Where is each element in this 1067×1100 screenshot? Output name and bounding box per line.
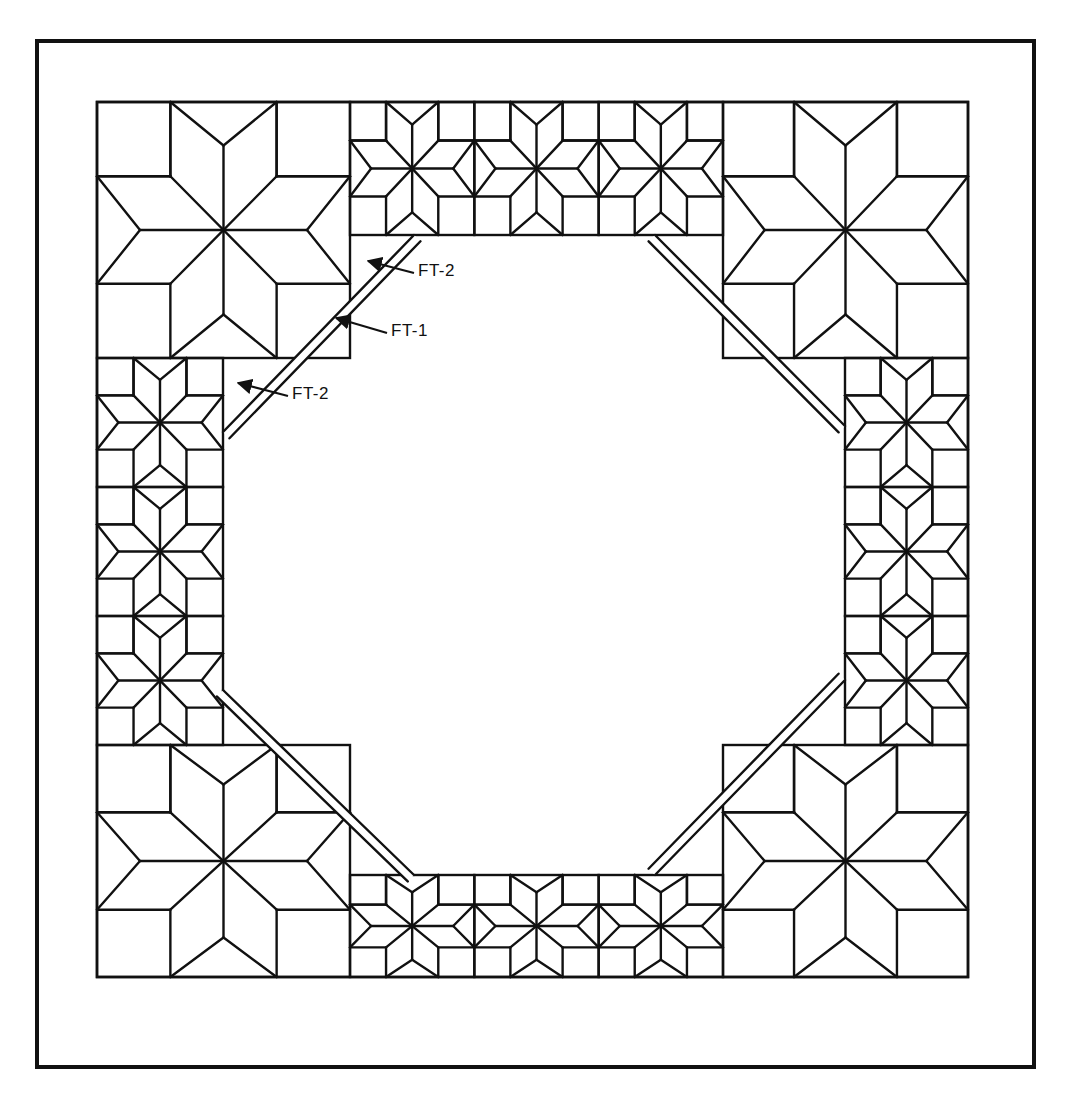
diagonal-line-ne-outer — [649, 241, 839, 432]
diagonal-line-se — [655, 680, 845, 875]
diagonal-band-se — [649, 674, 845, 875]
label-ft-2: FT-2 — [292, 384, 329, 404]
quilt-diagram — [0, 0, 1067, 1100]
diagonal-line-se-outer — [649, 674, 839, 869]
diagonal-line-ne — [655, 235, 845, 426]
label-arrow — [336, 318, 387, 333]
label-ft-1: FT-1 — [391, 321, 428, 341]
diagonal-band-ne — [649, 235, 845, 432]
label-ft-2: FT-2 — [418, 261, 455, 281]
quilt-drawing — [0, 0, 1067, 1100]
